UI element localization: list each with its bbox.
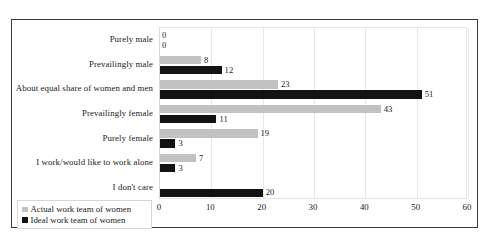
bar-group-ideal: 0 xyxy=(160,41,466,49)
category-label: I work/would like to work alone xyxy=(36,150,153,175)
bar xyxy=(160,164,175,172)
bar-row: 2351 xyxy=(160,77,466,102)
bar-value-label: 11 xyxy=(219,115,227,124)
bar-group-actual xyxy=(160,179,466,187)
legend-item[interactable]: Ideal work team of women xyxy=(22,215,147,226)
bar-value-label: 23 xyxy=(281,80,290,89)
bar-group-actual: 43 xyxy=(160,105,466,113)
bar-group-ideal: 11 xyxy=(160,115,466,123)
legend-swatch-icon xyxy=(22,207,28,213)
bar-group-actual: 23 xyxy=(160,80,466,88)
bar-value-label: 12 xyxy=(225,66,234,75)
x-tick-label: 10 xyxy=(206,202,215,212)
x-tick-label: 50 xyxy=(411,202,420,212)
category-label: Purely male xyxy=(110,27,153,52)
bar-row: 00 xyxy=(160,28,466,53)
chart-figure: Purely malePrevailingly maleAbout equal … xyxy=(0,0,491,248)
bar-row: 4311 xyxy=(160,102,466,127)
bar-group-ideal: 3 xyxy=(160,164,466,172)
x-tick-label: 60 xyxy=(463,202,472,212)
x-tick-label: 20 xyxy=(257,202,266,212)
bar-group-ideal: 51 xyxy=(160,90,466,98)
bar-value-label: 7 xyxy=(199,154,203,163)
bar-row: 193 xyxy=(160,126,466,151)
bar xyxy=(160,105,381,113)
category-label: About equal share of women and men xyxy=(16,76,153,101)
plot-area: 00812235143111937320 xyxy=(159,27,467,199)
bar xyxy=(160,90,422,98)
bar-group-ideal: 3 xyxy=(160,139,466,147)
bar-value-label: 8 xyxy=(204,56,208,65)
bar-group-actual: 8 xyxy=(160,56,466,64)
clipped-caption-text xyxy=(14,0,474,4)
x-tick-label: 40 xyxy=(360,202,369,212)
category-axis-labels: Purely malePrevailingly maleAbout equal … xyxy=(18,27,157,199)
bar-value-label: 51 xyxy=(425,90,434,99)
bar-value-label: 20 xyxy=(266,188,275,197)
bar xyxy=(160,139,175,147)
category-label: Purely female xyxy=(103,125,153,150)
bar-value-label: 43 xyxy=(384,105,393,114)
legend-label: Ideal work team of women xyxy=(31,215,126,226)
gridline xyxy=(468,28,469,198)
bar-group-ideal: 20 xyxy=(160,189,466,197)
x-tick-label: 0 xyxy=(157,202,161,212)
chart-legend: Actual work team of womenIdeal work team… xyxy=(17,200,152,229)
bar-row: 73 xyxy=(160,151,466,176)
bar xyxy=(160,56,201,64)
bar-value-label: 19 xyxy=(261,129,270,138)
bar-row: 20 xyxy=(160,175,466,200)
bar xyxy=(160,66,222,74)
bar-value-label: 0 xyxy=(162,41,166,50)
legend-item[interactable]: Actual work team of women xyxy=(22,204,147,215)
x-axis: 0102030405060 xyxy=(159,199,467,219)
bar xyxy=(160,80,278,88)
category-label: Prevailingly female xyxy=(82,101,153,126)
bar-row: 812 xyxy=(160,53,466,78)
bar xyxy=(160,189,263,197)
bar xyxy=(160,129,258,137)
bar-value-label: 0 xyxy=(162,31,166,40)
chart-frame: Purely malePrevailingly maleAbout equal … xyxy=(11,19,478,228)
bar-value-label: 3 xyxy=(178,164,182,173)
category-label: Prevailingly male xyxy=(89,52,153,77)
bar-group-actual: 0 xyxy=(160,31,466,39)
bar-group-actual: 7 xyxy=(160,154,466,162)
legend-swatch-icon xyxy=(22,217,28,223)
category-label: I don't care xyxy=(113,174,153,199)
x-tick-label: 30 xyxy=(309,202,318,212)
bar xyxy=(160,115,216,123)
bar-group-actual: 19 xyxy=(160,129,466,137)
bar-rows: 00812235143111937320 xyxy=(160,28,466,198)
bar xyxy=(160,154,196,162)
bar-group-ideal: 12 xyxy=(160,66,466,74)
legend-label: Actual work team of women xyxy=(31,204,132,215)
bar-value-label: 3 xyxy=(178,139,182,148)
